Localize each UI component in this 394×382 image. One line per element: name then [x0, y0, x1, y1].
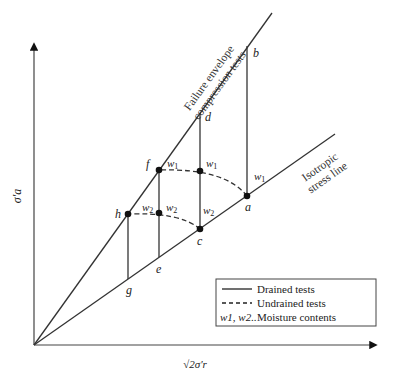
- point-a: [244, 193, 251, 200]
- undrained-path-c-h: [128, 214, 200, 229]
- label-c: c: [197, 234, 203, 248]
- moisture-w1-f: w1: [167, 157, 178, 171]
- point-h: [125, 211, 132, 218]
- label-a: a: [245, 200, 251, 214]
- point-e-undrained: [156, 210, 163, 217]
- label-e: e: [156, 262, 162, 276]
- label-b: b: [253, 46, 259, 60]
- legend-undrained: Undrained tests: [257, 297, 326, 309]
- svg-text:w1: w1: [167, 157, 178, 171]
- svg-text:σ′a: σ′a: [10, 189, 24, 204]
- point-f: [156, 167, 163, 174]
- svg-text:w1: w1: [206, 157, 217, 171]
- moisture-w2-c: w2: [203, 204, 214, 218]
- y-axis-label: σ′a: [10, 189, 24, 204]
- legend: Drained tests Undrained tests w1, w2.. M…: [216, 279, 376, 326]
- failure-envelope-label: Failure envelope compression tests: [180, 41, 249, 123]
- label-g: g: [126, 283, 132, 297]
- svg-text:w2: w2: [142, 201, 153, 215]
- legend-moisture-symbol: w1, w2..: [220, 311, 257, 323]
- label-h: h: [115, 207, 121, 221]
- svg-text:w2: w2: [166, 201, 177, 215]
- x-axis-label: √2σ′r: [183, 358, 207, 370]
- moisture-w1-d: w1: [206, 157, 217, 171]
- svg-text:w1: w1: [254, 170, 265, 184]
- point-d-undrained: [197, 168, 204, 175]
- stress-path-diagram: b d f h a c e g w1 w1 w1 w2 w2 w2 Failur…: [0, 0, 394, 382]
- point-c: [197, 226, 204, 233]
- legend-drained: Drained tests: [257, 283, 315, 295]
- label-f: f: [146, 157, 151, 171]
- svg-text:w2: w2: [203, 204, 214, 218]
- moisture-w2-e: w2: [166, 201, 177, 215]
- moisture-w2-h: w2: [142, 201, 153, 215]
- moisture-w1-a: w1: [254, 170, 265, 184]
- isotropic-line-label: Isotropic stress line: [298, 149, 350, 196]
- legend-moisture: Moisture contents: [257, 311, 336, 323]
- undrained-path-a-f: [159, 170, 247, 196]
